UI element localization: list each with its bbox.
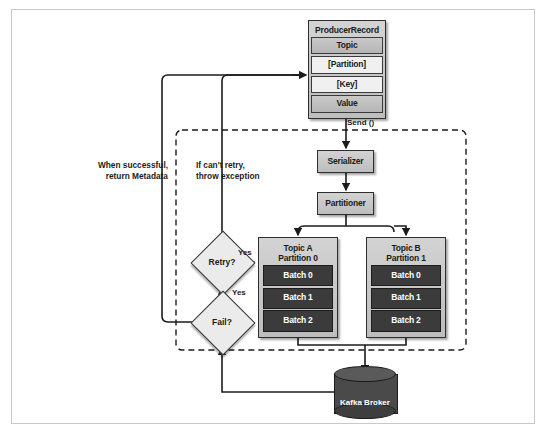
broker-cylinder-top: [334, 366, 396, 382]
figure-frame: [11, 9, 535, 424]
kafka-broker-label: Kafka Broker: [334, 398, 396, 407]
producer-record-field-key: [Key]: [311, 76, 383, 94]
fail-decision-label: Fail?: [197, 312, 247, 332]
edge-label-send: Send (): [347, 118, 374, 127]
diagram-canvas: ProducerRecord Topic [Partition] [Key] V…: [0, 0, 547, 434]
topic-b-batch-0: Batch 0: [371, 265, 441, 286]
producer-record-field-value: Value: [311, 95, 383, 113]
topic-a-node[interactable]: Topic A Partition 0 Batch 0 Batch 1 Batc…: [258, 237, 338, 338]
serializer-node[interactable]: Serializer: [317, 150, 374, 173]
producer-record-node[interactable]: ProducerRecord Topic [Partition] [Key] V…: [308, 20, 386, 119]
topic-b-node[interactable]: Topic B Partition 1 Batch 0 Batch 1 Batc…: [366, 237, 446, 338]
topic-b-title-line2: Partition 1: [386, 254, 425, 264]
topic-a-batch-2: Batch 2: [263, 310, 333, 331]
producer-record-title: ProducerRecord: [312, 24, 382, 37]
producer-record-field-topic: Topic: [311, 37, 383, 55]
producer-record-field-partition: [Partition]: [311, 56, 383, 74]
topic-b-batch-1: Batch 1: [371, 288, 441, 309]
topic-a-title: Topic A Partition 0: [264, 242, 332, 265]
topic-a-batch-0: Batch 0: [263, 265, 333, 286]
partitioner-node[interactable]: Partitioner: [317, 192, 374, 215]
kafka-broker-node[interactable]: Kafka Broker: [334, 366, 396, 418]
topic-b-title: Topic B Partition 1: [372, 242, 440, 265]
topic-a-title-line2: Partition 0: [278, 254, 317, 264]
annotation-throw-exception: If can't retry, throw exception: [196, 160, 306, 182]
topic-a-batch-1: Batch 1: [263, 288, 333, 309]
edge-label-yes-fail: Yes: [232, 288, 246, 297]
edge-label-yes-retry: Yes: [238, 248, 252, 257]
annotation-success-return: When successful, return Metadata: [72, 160, 168, 182]
topic-b-batch-2: Batch 2: [371, 310, 441, 331]
